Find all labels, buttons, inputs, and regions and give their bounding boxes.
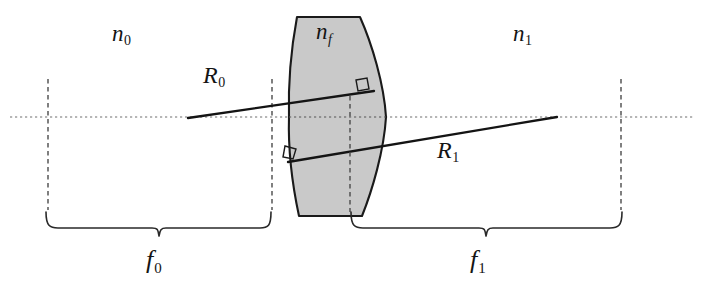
label-f0: f0 [146,247,162,276]
label-R1-base: R [437,137,452,163]
label-n1-sub: 1 [525,33,532,48]
label-n1-base: n [513,21,525,46]
label-f1-sub: 1 [478,260,486,276]
label-n1: n1 [513,22,532,48]
label-R0-base: R [203,62,218,88]
label-nf: nf [316,20,332,47]
label-R1: R1 [437,138,459,165]
label-f1: f1 [470,247,486,276]
brace-f0 [46,212,271,236]
diagram-canvas [0,0,702,298]
label-n0: n0 [112,22,131,48]
label-nf-sub: f [328,32,332,47]
label-R0: R0 [203,63,225,90]
brace-f1 [351,212,622,236]
label-f1-base: f [470,245,477,274]
label-R0-sub: 0 [218,75,225,90]
lens-body [289,17,386,216]
label-f0-base: f [146,245,153,274]
label-n0-sub: 0 [124,33,131,48]
optical-ray-diagram: n0 nf n1 R0 R1 f0 f1 [0,0,702,298]
label-n0-base: n [112,21,124,46]
label-R1-sub: 1 [452,150,459,165]
label-nf-base: n [316,19,328,44]
label-f0-sub: 0 [154,260,162,276]
